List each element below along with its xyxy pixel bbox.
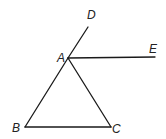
ray-ad — [68, 27, 88, 58]
label-b: B — [12, 121, 20, 135]
ray-ae — [68, 57, 155, 58]
label-c: C — [112, 122, 121, 136]
triangle-diagram: A B C D E — [0, 0, 166, 139]
segment-ac — [68, 58, 111, 127]
segment-ab — [25, 58, 68, 127]
label-a: A — [56, 51, 65, 65]
label-e: E — [149, 42, 158, 56]
label-d: D — [87, 8, 96, 22]
